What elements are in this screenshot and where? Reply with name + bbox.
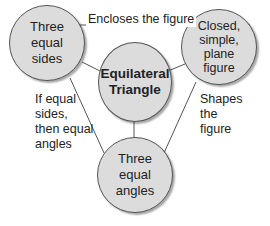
- node-text: equal: [30, 35, 64, 51]
- edge-label-encloses: Encloses the figure: [86, 12, 196, 27]
- edge-label-if-equal-sides: If equal sides, then equal angles: [35, 92, 93, 152]
- node-text: Three: [116, 151, 154, 167]
- edge-label-line: sides,: [35, 107, 93, 122]
- node-text: Three: [30, 19, 64, 35]
- center-text: Equilateral: [100, 66, 169, 82]
- edge-label-line: If equal: [35, 92, 93, 107]
- center-text: Triangle: [100, 82, 169, 98]
- node-text: equal: [116, 167, 154, 183]
- node-equilateral-triangle: Equilateral Triangle: [98, 42, 172, 122]
- node-text: angles: [116, 183, 154, 199]
- edge-label-line: Shapes: [200, 92, 242, 107]
- node-three-equal-angles: Three equal angles: [97, 137, 173, 213]
- edge-label-line: figure: [200, 122, 242, 137]
- node-three-equal-sides: Three equal sides: [9, 5, 85, 81]
- node-text: simple,: [198, 33, 240, 47]
- node-text: figure: [198, 61, 240, 75]
- node-text: plane: [198, 47, 240, 61]
- edge-label-line: angles: [35, 137, 93, 152]
- edge-label-line: then equal: [35, 122, 93, 137]
- node-text: Closed,: [198, 19, 240, 33]
- node-text: sides: [30, 51, 64, 67]
- edge-label-shapes-the-figure: Shapes the figure: [200, 92, 242, 137]
- edge-label-line: the: [200, 107, 242, 122]
